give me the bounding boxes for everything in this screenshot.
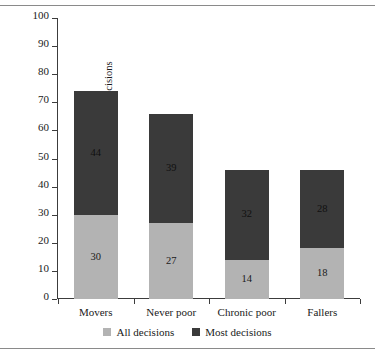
y-tick-mark bbox=[52, 74, 57, 75]
legend-label: All decisions bbox=[116, 326, 174, 338]
legend-item[interactable]: All decisions bbox=[103, 326, 174, 338]
bar-segment[interactable]: 18 bbox=[300, 248, 344, 299]
bar-series-container: 3044273914321828 bbox=[58, 18, 360, 299]
bottom-rule bbox=[0, 348, 375, 349]
chart-legend: All decisionsMost decisions bbox=[0, 326, 375, 338]
bar-group[interactable]: 3044 bbox=[74, 18, 118, 299]
y-tick-label: 0 bbox=[44, 291, 50, 302]
bar-value-label: 32 bbox=[242, 209, 253, 220]
figure: % households reporting control over deci… bbox=[0, 0, 375, 357]
y-tick-label: 100 bbox=[33, 10, 50, 21]
legend-swatch-icon bbox=[192, 328, 200, 336]
bar-value-label: 18 bbox=[317, 268, 328, 279]
bar-segment[interactable]: 39 bbox=[149, 114, 193, 224]
x-tick-mark bbox=[134, 299, 135, 304]
y-tick-label: 70 bbox=[38, 94, 49, 105]
y-tick-mark bbox=[52, 243, 57, 244]
x-axis-label: Never poor bbox=[134, 306, 210, 318]
y-tick-mark bbox=[52, 299, 57, 300]
bar-segment[interactable]: 44 bbox=[74, 91, 118, 215]
y-tick-mark bbox=[52, 271, 57, 272]
y-tick-label: 50 bbox=[38, 151, 49, 162]
x-axis-label: Fallers bbox=[285, 306, 361, 318]
y-tick-label: 80 bbox=[38, 66, 49, 77]
y-tick-label: 30 bbox=[38, 207, 49, 218]
bar-segment[interactable]: 27 bbox=[149, 223, 193, 299]
x-tick-mark bbox=[360, 299, 361, 304]
plot-area: % households reporting control over deci… bbox=[57, 18, 360, 299]
y-tick-mark bbox=[52, 215, 57, 216]
x-tick-mark bbox=[285, 299, 286, 304]
legend-label: Most decisions bbox=[205, 326, 271, 338]
bar-value-label: 28 bbox=[317, 204, 328, 215]
y-tick-mark bbox=[52, 102, 57, 103]
x-tick-mark bbox=[58, 299, 59, 304]
y-tick-mark bbox=[52, 159, 57, 160]
y-tick-mark bbox=[52, 18, 57, 19]
y-tick-label: 20 bbox=[38, 235, 49, 246]
bar-value-label: 39 bbox=[166, 163, 177, 174]
y-tick-mark bbox=[52, 130, 57, 131]
y-tick-label: 40 bbox=[38, 179, 49, 190]
legend-swatch-icon bbox=[103, 328, 111, 336]
y-tick-label: 60 bbox=[38, 122, 49, 133]
bar-group[interactable]: 2739 bbox=[149, 18, 193, 299]
bar-segment[interactable]: 28 bbox=[300, 170, 344, 249]
y-tick-label: 10 bbox=[38, 263, 49, 274]
bar-segment[interactable]: 14 bbox=[225, 260, 269, 299]
y-tick-mark bbox=[52, 46, 57, 47]
bar-segment[interactable]: 32 bbox=[225, 170, 269, 260]
bar-value-label: 14 bbox=[242, 274, 253, 285]
x-axis-label: Chronic poor bbox=[209, 306, 285, 318]
bar-segment[interactable]: 30 bbox=[74, 215, 118, 299]
bar-value-label: 44 bbox=[91, 148, 102, 159]
legend-item[interactable]: Most decisions bbox=[192, 326, 271, 338]
y-tick-mark bbox=[52, 187, 57, 188]
x-axis-label: Movers bbox=[58, 306, 134, 318]
bar-value-label: 30 bbox=[91, 252, 102, 263]
y-tick-label: 90 bbox=[38, 38, 49, 49]
x-tick-mark bbox=[209, 299, 210, 304]
bar-value-label: 27 bbox=[166, 256, 177, 267]
top-rule bbox=[0, 5, 375, 6]
bar-group[interactable]: 1432 bbox=[225, 18, 269, 299]
bar-group[interactable]: 1828 bbox=[300, 18, 344, 299]
